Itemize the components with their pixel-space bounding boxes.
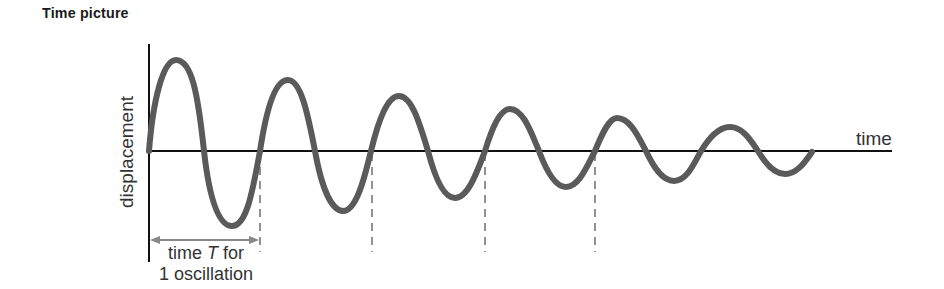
- arrow-right-icon: [249, 236, 259, 244]
- period-label-line2: 1 oscillation: [159, 264, 253, 284]
- damped-wave: [149, 60, 812, 226]
- arrow-left-icon: [150, 236, 160, 244]
- period-label-line1: time T for: [168, 243, 244, 263]
- x-axis-label: time: [856, 128, 892, 149]
- y-axis-label: displacement: [116, 95, 137, 208]
- oscillation-diagram: displacement time time T for 1 oscillati…: [0, 0, 944, 289]
